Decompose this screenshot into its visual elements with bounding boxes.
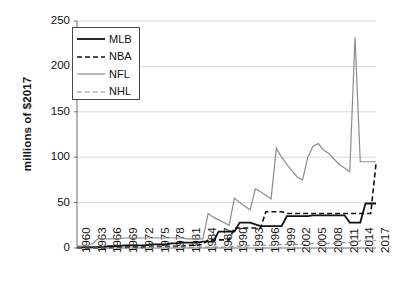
plot-area <box>0 0 394 293</box>
legend-item-nba[interactable]: NBA <box>73 48 141 66</box>
legend-label: NBA <box>109 51 132 62</box>
legend-label: NFL <box>109 69 130 80</box>
legend-label: NHL <box>109 86 131 97</box>
legend-label: MLB <box>109 34 132 45</box>
series-line-mlb <box>77 204 376 248</box>
legend-item-nfl[interactable]: NFL <box>73 65 141 83</box>
chart-container: millions of $2017 050100150200250 196019… <box>0 0 394 293</box>
legend-item-nhl[interactable]: NHL <box>73 83 141 101</box>
legend-item-mlb[interactable]: MLB <box>73 30 141 48</box>
legend-swatch-mlb <box>76 32 106 46</box>
legend-swatch-nhl <box>76 85 106 99</box>
legend-swatch-nfl <box>76 67 106 81</box>
series-line-nba <box>77 164 376 248</box>
chart-legend: MLBNBANFLNHL <box>72 27 140 100</box>
legend-swatch-nba <box>76 50 106 64</box>
